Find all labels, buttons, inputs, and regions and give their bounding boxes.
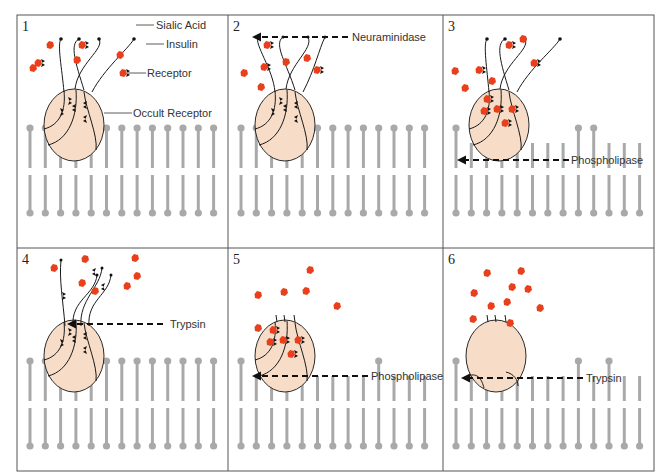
sialic-acid-terminal — [485, 37, 489, 41]
arrowhead-icon — [461, 374, 470, 383]
lipid-head-lower — [26, 209, 33, 216]
panel-5: 5Phospholipase — [233, 252, 443, 450]
chain-stub — [276, 315, 277, 322]
panel-number: 4 — [22, 252, 29, 267]
lipid-head-lower — [299, 442, 306, 449]
lipid-head-lower — [149, 209, 156, 216]
panel-3: 3Phospholipase — [448, 19, 643, 217]
sialic-acid-terminal — [101, 267, 104, 270]
receptor-glyph — [62, 292, 66, 300]
chain-stub — [487, 315, 488, 322]
sialic-acid-terminal — [110, 274, 113, 277]
lipid-head-lower — [421, 442, 428, 449]
sialic-acid-terminal — [77, 37, 81, 41]
sialic-acid-terminal — [558, 37, 562, 41]
lipid-head-lower — [164, 442, 171, 449]
lipid-head-lower — [88, 442, 95, 449]
lipid-head-lower — [621, 442, 628, 449]
insulin-molecule — [261, 63, 269, 71]
lipid-head-lower — [375, 209, 382, 216]
receptor-glyph — [92, 268, 96, 276]
lipid-head-lower — [57, 209, 64, 216]
lipid-head-lower — [329, 442, 336, 449]
lipid-head-lower — [283, 209, 290, 216]
insulin-molecule — [476, 66, 484, 74]
lipid-head-lower — [314, 209, 321, 216]
insulin-molecule — [452, 67, 460, 75]
lipid-head-lower — [329, 209, 336, 216]
lipid-head-lower — [179, 209, 186, 216]
cleaved-chain — [89, 275, 111, 326]
lipid-head-lower — [390, 209, 397, 216]
lipid-head-lower — [103, 442, 110, 449]
cell — [44, 320, 104, 392]
free-insulin — [241, 54, 312, 91]
lipid-head-lower — [237, 209, 244, 216]
lipid-head-lower — [253, 209, 260, 216]
lipid-head-lower — [72, 209, 79, 216]
lipid-head-lower — [57, 442, 64, 449]
chain-stub — [505, 315, 506, 322]
enzyme-label: Trypsin — [170, 318, 206, 330]
insulin-molecule — [117, 51, 125, 59]
enzyme-label: Phospholipase — [571, 154, 643, 166]
lipid-head-lower — [314, 442, 321, 449]
panel-number: 6 — [448, 252, 455, 267]
sialic-acid-terminal — [59, 37, 63, 41]
insulin-molecule — [307, 266, 315, 274]
lipid-head-lower — [544, 209, 551, 216]
lipid-head-lower — [210, 442, 217, 449]
lipid-head-lower — [118, 209, 125, 216]
lipid-head-lower — [118, 442, 125, 449]
insulin-molecule — [504, 298, 512, 306]
lipid-head-lower — [390, 442, 397, 449]
lipid-head-lower — [483, 209, 490, 216]
insulin-molecule — [51, 264, 59, 272]
insulin-molecule — [506, 41, 514, 49]
arrowhead-icon — [252, 33, 261, 42]
lipid-head-lower — [406, 442, 413, 449]
insulin-molecule — [258, 83, 266, 91]
lipid-head-lower — [452, 442, 459, 449]
insulin-molecule — [30, 64, 38, 72]
insulin-molecule — [471, 289, 479, 297]
lipid-head-lower — [498, 442, 505, 449]
insulin-molecule — [462, 84, 470, 92]
enzyme-label: Trypsin — [586, 372, 622, 384]
insulin-molecule — [303, 287, 311, 295]
panel-number: 5 — [233, 252, 240, 267]
lipid-head-lower — [529, 209, 536, 216]
glycoprotein-chains — [485, 37, 562, 92]
insulin-label: Insulin — [166, 38, 198, 50]
receptor-glyph — [101, 283, 105, 291]
lipid-head-lower — [468, 209, 475, 216]
lipid-head-lower — [483, 442, 490, 449]
lipid-head-lower — [590, 209, 597, 216]
insulin-molecule — [79, 279, 87, 287]
insulin-molecule — [120, 69, 128, 77]
lipid-head-lower — [636, 442, 643, 449]
sialic-acid-terminal — [503, 37, 507, 41]
free-insulin — [452, 35, 528, 92]
free-insulin — [255, 266, 342, 332]
lipid-head-lower — [179, 442, 186, 449]
lipid-head-lower — [195, 442, 202, 449]
lipid-head-lower — [299, 209, 306, 216]
lipid-head-lower — [268, 209, 275, 216]
insulin-molecule — [518, 267, 526, 275]
lipid-head-lower — [237, 442, 244, 449]
insulin-molecule — [255, 291, 263, 299]
panel-6: 6Trypsin — [448, 252, 643, 450]
insulin-molecule — [537, 304, 545, 312]
lipid-head-lower — [575, 209, 582, 216]
insulin-molecule — [264, 41, 272, 49]
insulin-molecule — [134, 272, 142, 280]
lipid-head-lower — [636, 209, 643, 216]
figure-frame — [17, 15, 654, 471]
sialic-acid-terminal — [97, 37, 101, 41]
sialylated-chain — [500, 39, 526, 89]
free-insulin — [470, 267, 545, 327]
insulin-molecule — [124, 282, 132, 290]
insulin-molecule — [509, 283, 517, 291]
sialic-acid-label: Sialic Acid — [156, 19, 206, 31]
